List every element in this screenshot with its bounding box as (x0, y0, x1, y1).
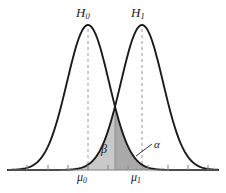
axis-label-mu1-subscript: 1 (137, 176, 141, 185)
label-h1-base: H (131, 5, 140, 20)
label-h1-subscript: 1 (140, 11, 144, 21)
axis-label-mu1: μ1 (131, 171, 141, 185)
alpha-leader-line (136, 144, 152, 156)
label-h0: H0 (76, 6, 90, 21)
label-alpha: α (154, 139, 160, 150)
label-h0-subscript: 0 (85, 11, 89, 21)
axis-label-mu0-subscript: 0 (83, 176, 87, 185)
hypothesis-test-figure: H0 H1 μ0 μ1 β α (0, 0, 226, 193)
label-h0-base: H (76, 5, 85, 20)
distribution-plot-svg (0, 0, 226, 193)
label-beta: β (101, 143, 107, 155)
axis-label-mu0: μ0 (77, 171, 87, 185)
label-h1: H1 (131, 6, 145, 21)
